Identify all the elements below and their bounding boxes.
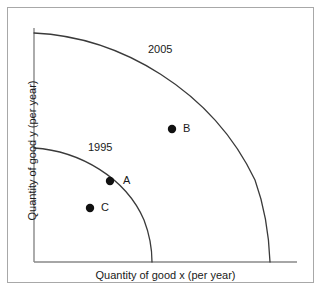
curve-label-1995: 1995 (88, 142, 112, 153)
ppf-curve-2005 (34, 33, 270, 262)
ppf-figure: 2005 1995 A B C Quantity of good x (per … (0, 0, 323, 291)
point-label-c: C (101, 202, 109, 213)
curve-label-2005: 2005 (148, 44, 172, 55)
point-marker-a (106, 177, 114, 185)
y-axis-title: Quantity of good y (per year) (27, 51, 38, 251)
point-marker-b (168, 125, 176, 133)
point-label-a: A (123, 175, 130, 186)
x-axis-title: Quantity of good x (per year) (34, 270, 297, 281)
point-label-b: B (183, 123, 190, 134)
point-marker-c (86, 204, 94, 212)
ppf-curve-1995 (34, 148, 152, 262)
